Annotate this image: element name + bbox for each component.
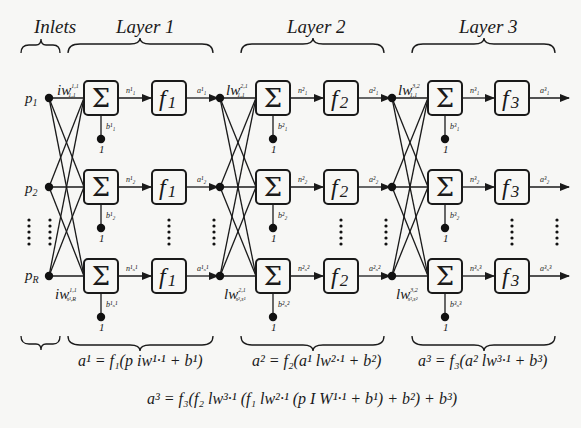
full-network-equation: a³ = f₃(f₂ lw³·¹ (f₁ lw²·¹ (p I W¹·¹ + b… xyxy=(147,390,457,408)
iw-bottom-label: iw1,1s¹,R xyxy=(55,286,77,302)
lw2-top-label: lw2,11,1 xyxy=(226,82,248,98)
layer1-equation: a¹ = f₁(p iw¹·¹ + b¹) xyxy=(78,352,203,370)
net-input-label: n³₂ xyxy=(470,175,479,184)
net-input-label: n¹₂ xyxy=(126,175,135,184)
output-label: a³₁ xyxy=(540,86,549,95)
layer2-equation: a² = f₂(a¹ lw²·¹ + b²) xyxy=(252,352,381,370)
bias-label: b³₂ xyxy=(450,211,459,220)
bias-label: b¹₁ xyxy=(106,122,115,131)
bias-label: b²ₛ² xyxy=(278,300,290,309)
hidden-node-dot xyxy=(216,94,224,102)
layer3-bottom-brace xyxy=(412,336,555,351)
layer2-top-brace xyxy=(241,38,384,53)
sigma-icon: Σ xyxy=(436,83,454,113)
bias-one-label: 1 xyxy=(99,321,105,333)
bias-one-label: 1 xyxy=(443,321,449,333)
input-node-dot xyxy=(45,94,53,102)
sigma-icon: Σ xyxy=(264,172,282,202)
iw-top-label: iw1,11,1 xyxy=(57,82,79,98)
layer3-heading: Layer 3 xyxy=(458,16,518,37)
output-label: a²₁ xyxy=(369,86,378,95)
sigma-icon: Σ xyxy=(92,83,110,113)
bias-one-label: 1 xyxy=(271,321,277,333)
bias-label: b¹ₛ¹ xyxy=(106,300,118,309)
layer2-heading: Layer 2 xyxy=(286,16,346,37)
bias-label: b³ₛ³ xyxy=(450,300,462,309)
sigma-icon: Σ xyxy=(264,83,282,113)
vertical-ellipsis-icon xyxy=(339,218,342,245)
bias-node-dot xyxy=(269,313,277,321)
layer1-bottom-brace xyxy=(68,336,213,351)
bias-label: b²₂ xyxy=(278,211,287,220)
sigma-icon: Σ xyxy=(92,172,110,202)
net-input-label: n¹ₛ¹ xyxy=(126,264,138,273)
hidden-node-dot xyxy=(216,183,224,191)
bias-label: b¹₂ xyxy=(106,211,115,220)
net-input-label: n²ₛ² xyxy=(298,264,310,273)
vertical-ellipsis-icon xyxy=(510,218,513,245)
sigma-icon: Σ xyxy=(436,172,454,202)
inputs-ellipsis-icon xyxy=(27,218,51,245)
bias-node-dot xyxy=(441,224,449,232)
output-label: a³₂ xyxy=(540,175,549,184)
net-input-label: n¹₁ xyxy=(126,86,135,95)
sigma-icon: Σ xyxy=(92,261,110,291)
bias-node-dot xyxy=(441,135,449,143)
hidden-node-dot xyxy=(388,94,396,102)
vertical-ellipsis-icon xyxy=(384,218,387,245)
net-input-label: n²₂ xyxy=(298,175,307,184)
output-label: a¹₂ xyxy=(197,175,206,184)
network-diagram: Inlets Layer 1 Layer 2 Layer 3 p1 p2 pR … xyxy=(0,0,581,428)
layer2-bottom-brace xyxy=(241,336,384,351)
output-label: a²ₛ² xyxy=(369,264,381,273)
bias-label: b³₁ xyxy=(450,122,459,131)
lw3-top-label: lw3,21,1 xyxy=(398,82,420,98)
output-label: a²₂ xyxy=(369,175,378,184)
inlets-bottom-brace xyxy=(21,336,60,350)
input-p1-label: p1 xyxy=(24,90,38,108)
vertical-ellipsis-icon xyxy=(555,218,558,245)
inlets-heading: Inlets xyxy=(33,16,76,37)
bias-one-label: 1 xyxy=(271,143,277,155)
net-input-label: n³₁ xyxy=(470,86,479,95)
lw3-bottom-label: lw3,2s³,s² xyxy=(396,286,418,302)
bias-node-dot xyxy=(97,224,105,232)
bias-one-label: 1 xyxy=(99,232,105,244)
output-label: a¹ₛ¹ xyxy=(197,264,209,273)
vertical-ellipsis-icon xyxy=(212,218,215,245)
hidden-node-dot xyxy=(388,183,396,191)
bias-node-dot xyxy=(97,135,105,143)
input-pR-label: pR xyxy=(24,267,39,285)
net-input-label: n³ₛ³ xyxy=(470,264,482,273)
input-node-dot xyxy=(45,183,53,191)
lw2-bottom-label: lw2,1s²,s¹ xyxy=(224,286,246,302)
sigma-icon: Σ xyxy=(264,261,282,291)
input-node-dot xyxy=(45,272,53,280)
bias-one-label: 1 xyxy=(443,232,449,244)
bias-node-dot xyxy=(269,224,277,232)
bias-one-label: 1 xyxy=(443,143,449,155)
output-label: a³ₛ³ xyxy=(540,264,552,273)
hidden-node-dot xyxy=(388,272,396,280)
sigma-icon: Σ xyxy=(436,261,454,291)
bias-one-label: 1 xyxy=(99,143,105,155)
layer3-top-brace xyxy=(412,38,555,53)
input-p2-label: p2 xyxy=(24,180,38,198)
layer1-top-brace xyxy=(68,38,213,53)
bias-node-dot xyxy=(97,313,105,321)
bias-label: b²₁ xyxy=(278,122,287,131)
inlets-top-brace xyxy=(21,39,60,53)
vertical-ellipsis-icon xyxy=(167,218,170,245)
hidden-node-dot xyxy=(216,272,224,280)
layer1-heading: Layer 1 xyxy=(115,16,175,37)
bias-node-dot xyxy=(441,313,449,321)
layer3-equation: a³ = f₃(a² lw³·¹ + b³) xyxy=(418,352,547,370)
net-input-label: n²₁ xyxy=(298,86,307,95)
bias-one-label: 1 xyxy=(271,232,277,244)
output-label: a¹₁ xyxy=(197,86,206,95)
bias-node-dot xyxy=(269,135,277,143)
